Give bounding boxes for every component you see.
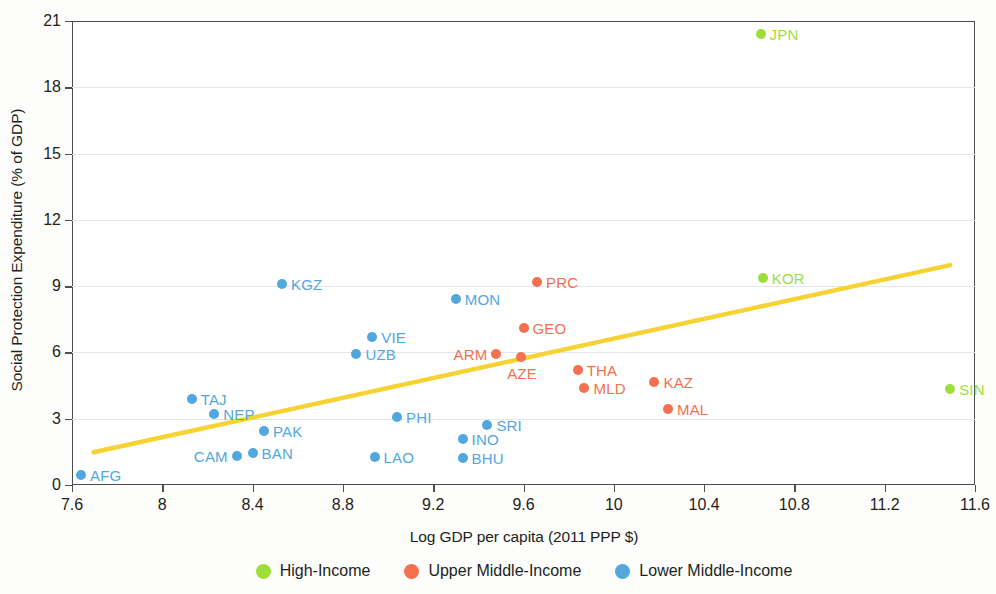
data-point-label-kor: KOR	[772, 270, 805, 287]
x-tick	[524, 485, 525, 492]
y-tick	[65, 220, 72, 221]
data-point-label-prc: PRC	[546, 273, 578, 290]
data-point-phi[interactable]	[392, 412, 402, 422]
data-point-mon[interactable]	[451, 294, 461, 304]
y-tick-label: 9	[52, 277, 61, 295]
x-tick	[975, 485, 976, 492]
data-point-label-geo: GEO	[533, 320, 567, 337]
x-tick-label: 9.6	[512, 496, 534, 514]
y-tick	[65, 485, 72, 486]
x-axis-title: Log GDP per capita (2011 PPP $)	[72, 528, 976, 546]
y-tick	[65, 154, 72, 155]
y-tick	[65, 352, 72, 353]
data-point-label-kaz: KAZ	[663, 374, 693, 391]
data-point-label-ino: INO	[472, 430, 499, 447]
data-point-label-mld: MLD	[593, 379, 625, 396]
data-point-mal[interactable]	[663, 404, 673, 414]
y-tick-label: 0	[52, 476, 61, 494]
legend-label: Lower Middle-Income	[639, 562, 792, 580]
x-tick-label: 10	[605, 496, 623, 514]
x-tick-label: 7.6	[61, 496, 83, 514]
x-tick	[253, 485, 254, 492]
x-tick-label: 8.4	[241, 496, 263, 514]
x-tick	[343, 485, 344, 492]
y-axis-title: Social Protection Expenditure (% of GDP)	[4, 0, 30, 500]
data-point-tha[interactable]	[573, 365, 583, 375]
data-point-label-taj: TAJ	[201, 390, 227, 407]
data-point-nep[interactable]	[209, 409, 219, 419]
data-point-label-kgz: KGZ	[291, 275, 322, 292]
y-tick-label: 12	[43, 211, 61, 229]
x-tick-label: 10.8	[779, 496, 810, 514]
legend-swatch-icon	[256, 564, 271, 579]
data-point-mld[interactable]	[579, 383, 589, 393]
y-tick	[65, 286, 72, 287]
x-tick-label: 9.2	[422, 496, 444, 514]
x-tick-label: 8	[158, 496, 167, 514]
x-tick	[794, 485, 795, 492]
data-point-taj[interactable]	[187, 394, 197, 404]
x-tick	[162, 485, 163, 492]
data-point-label-ban: BAN	[262, 444, 293, 461]
data-point-label-arm: ARM	[453, 345, 487, 362]
y-tick-label: 21	[43, 12, 61, 30]
data-point-label-jpn: JPN	[770, 26, 799, 43]
data-point-label-mal: MAL	[677, 400, 708, 417]
data-point-afg[interactable]	[76, 470, 86, 480]
data-point-label-vie: VIE	[381, 328, 406, 345]
data-point-label-nep: NEP	[223, 406, 254, 423]
data-point-label-aze: AZE	[507, 364, 537, 381]
data-point-pak[interactable]	[259, 426, 269, 436]
y-tick-label: 15	[43, 145, 61, 163]
x-tick	[614, 485, 615, 492]
data-point-label-phi: PHI	[406, 408, 432, 425]
x-tick	[72, 485, 73, 492]
data-point-aze[interactable]	[516, 352, 526, 362]
legend: High-IncomeUpper Middle-IncomeLower Midd…	[72, 562, 976, 580]
x-tick-label: 11.6	[960, 496, 990, 514]
legend-label: Upper Middle-Income	[428, 562, 581, 580]
data-point-prc[interactable]	[532, 277, 542, 287]
plot-area: 036912151821 7.688.48.89.29.61010.410.81…	[72, 21, 975, 485]
data-point-label-uzb: UZB	[365, 345, 396, 362]
data-point-kgz[interactable]	[277, 279, 287, 289]
x-tick-label: 10.4	[689, 496, 720, 514]
legend-item-0[interactable]: High-Income	[256, 562, 371, 580]
data-point-label-tha: THA	[587, 362, 618, 379]
data-point-ban[interactable]	[248, 448, 258, 458]
legend-swatch-icon	[404, 564, 419, 579]
trend-line	[72, 21, 975, 485]
legend-label: High-Income	[280, 562, 371, 580]
chart-page: Social Protection Expenditure (% of GDP)…	[0, 0, 996, 594]
data-point-sri[interactable]	[482, 420, 492, 430]
data-point-arm[interactable]	[491, 349, 501, 359]
data-point-label-pak: PAK	[273, 422, 303, 439]
data-point-sin[interactable]	[945, 384, 955, 394]
y-tick	[65, 21, 72, 22]
legend-item-1[interactable]: Upper Middle-Income	[404, 562, 581, 580]
data-point-cam[interactable]	[232, 451, 242, 461]
x-tick	[885, 485, 886, 492]
data-point-label-sri: SRI	[496, 417, 522, 434]
data-point-bhu[interactable]	[458, 453, 468, 463]
data-point-label-mon: MON	[465, 291, 501, 308]
y-tick-label: 6	[52, 343, 61, 361]
y-tick-label: 3	[52, 410, 61, 428]
legend-item-2[interactable]: Lower Middle-Income	[615, 562, 792, 580]
y-tick	[65, 419, 72, 420]
y-tick-label: 18	[43, 78, 61, 96]
data-point-lao[interactable]	[370, 452, 380, 462]
data-point-kor[interactable]	[758, 273, 768, 283]
data-point-uzb[interactable]	[351, 349, 361, 359]
x-tick	[704, 485, 705, 492]
data-point-label-bhu: BHU	[472, 450, 504, 467]
x-tick	[433, 485, 434, 492]
data-point-geo[interactable]	[519, 323, 529, 333]
data-point-kaz[interactable]	[649, 377, 659, 387]
data-point-jpn[interactable]	[756, 29, 766, 39]
data-point-label-sin: SIN	[959, 380, 985, 397]
data-point-ino[interactable]	[458, 434, 468, 444]
data-point-vie[interactable]	[367, 332, 377, 342]
x-tick-label: 11.2	[870, 496, 900, 514]
data-point-label-cam: CAM	[194, 448, 228, 465]
